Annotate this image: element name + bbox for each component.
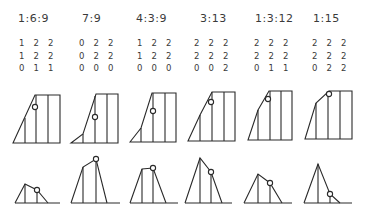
pivot-circle-icon [327,191,332,196]
top-figure-5 [248,91,292,140]
bottom-figure-1 [15,184,60,203]
top-figure-4 [188,92,235,141]
top-figure-6 [305,91,352,139]
pivot-circle-icon [32,104,37,109]
bottom-figure-4 [185,158,232,203]
pivot-circle-icon [208,99,213,104]
pivot-circle-icon [265,96,270,101]
pivot-circle-icon [34,187,39,192]
top-figure-1 [13,95,60,143]
pivot-circle-icon [93,156,98,161]
bottom-figure-3 [130,165,178,203]
bottom-figure-5 [244,174,292,203]
pivot-circle-icon [208,169,213,174]
bottom-figure-6 [304,164,352,203]
pivot-circle-icon [92,114,97,119]
top-figure-3 [130,93,176,142]
pivot-circle-icon [267,180,272,185]
top-figure-2 [71,94,118,143]
pivot-circle-icon [326,91,331,96]
bottom-figure-2 [71,156,120,203]
diagram-figures [0,0,368,213]
pivot-circle-icon [150,165,155,170]
pivot-circle-icon [150,108,155,113]
